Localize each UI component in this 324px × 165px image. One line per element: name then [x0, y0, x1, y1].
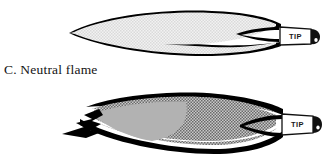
torch-tip-neutral: TIP	[280, 27, 320, 45]
nozzle-orifice-icon	[316, 125, 319, 129]
figure-page: TIP C. Neutral flame	[0, 0, 324, 165]
oxidizing-left-tip-spur	[62, 109, 103, 138]
tip-label: TIP	[291, 120, 304, 129]
figure-neutral-flame: TIP C. Neutral flame	[0, 0, 324, 85]
caption-neutral-flame: C. Neutral flame	[4, 63, 98, 77]
torch-tip-oxidizing: TIP	[282, 114, 322, 135]
oxidizing-flame-drawing: TIP	[0, 85, 324, 165]
tip-label: TIP	[289, 32, 302, 41]
nozzle-orifice-icon	[314, 38, 317, 42]
figure-oxidizing-flame: TIP D. Oxidizing flame	[0, 85, 324, 165]
torch-nozzle-icon	[313, 116, 322, 133]
